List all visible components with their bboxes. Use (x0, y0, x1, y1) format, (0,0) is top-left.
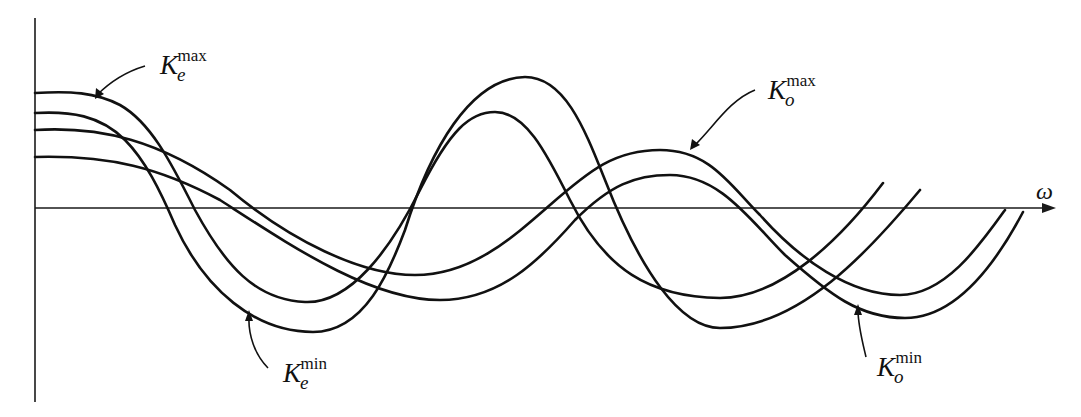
ko-min-leader (858, 310, 866, 357)
ko-min-superscript: min (896, 348, 922, 367)
ko-max-symbol: K (768, 75, 786, 105)
ke-max-leader (97, 66, 145, 95)
ke-max-superscript: max (177, 46, 206, 65)
label-ko-min: Komin (877, 352, 922, 383)
ko-min-subscript: o (894, 366, 904, 387)
ko-max-subscript: o (785, 89, 795, 110)
ke-min-leader (249, 316, 268, 368)
ke-max-subscript: e (177, 64, 185, 85)
label-ke-max: Kemax (160, 50, 207, 81)
ke-max-symbol: K (160, 50, 178, 80)
ko-max-superscript: max (787, 71, 816, 90)
ke-min-symbol: K (283, 358, 301, 388)
label-ke-min: Kemin (283, 358, 327, 389)
omega-label: ω (1036, 178, 1053, 205)
ke-min-subscript: e (300, 372, 308, 393)
ke-min-superscript: min (300, 354, 326, 373)
curve-ko-b (35, 157, 1023, 318)
ko-max-leader (695, 90, 755, 145)
ko-min-symbol: K (877, 352, 895, 382)
label-ko-max: Komax (768, 75, 816, 106)
